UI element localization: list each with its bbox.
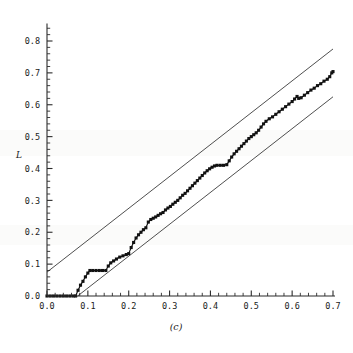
data-point-marker [79, 284, 82, 287]
x-tick-label: 0.2 [121, 301, 136, 311]
data-point-marker [144, 226, 147, 229]
data-point-marker [328, 75, 331, 78]
data-point-marker [127, 252, 130, 255]
data-point-marker [303, 94, 306, 97]
data-point-marker [118, 256, 121, 259]
data-point-marker [115, 257, 118, 260]
scan-wash-band-lower [0, 225, 353, 245]
data-point-marker [319, 82, 322, 85]
data-point-marker [322, 80, 325, 83]
data-point-marker [257, 129, 260, 132]
data-point-marker [88, 269, 91, 272]
data-point-marker [219, 164, 222, 167]
data-point-marker [91, 269, 94, 272]
chart-canvas: 0.00.10.20.30.40.50.60.70.80.00.10.20.30… [0, 0, 353, 353]
data-point-marker [132, 241, 135, 244]
data-point-marker [225, 163, 228, 166]
x-tick-label: 0.5 [244, 301, 259, 311]
data-point-marker [84, 275, 87, 278]
data-point-marker [331, 70, 334, 73]
scan-wash-band-upper [0, 130, 353, 156]
y-tick-label: 0.8 [25, 36, 40, 46]
data-point-marker [81, 280, 84, 283]
y-tick-label: 0.6 [25, 100, 40, 110]
data-point-marker [300, 96, 303, 99]
data-point-marker [215, 164, 218, 167]
x-tick-label: 0.7 [325, 301, 340, 311]
data-point-marker [98, 269, 101, 272]
data-point-marker [268, 117, 271, 120]
x-tick-label: 0.3 [162, 301, 177, 311]
y-tick-label: 0.5 [25, 132, 40, 142]
data-point-marker [77, 289, 80, 292]
figure-caption: (c) [170, 321, 183, 332]
x-tick-label: 0.4 [203, 301, 218, 311]
data-point-marker [121, 254, 124, 257]
data-point-marker [316, 84, 319, 87]
data-point-marker [313, 87, 316, 90]
figure-panel: 0.00.10.20.30.40.50.60.70.80.00.10.20.30… [0, 0, 353, 353]
data-point-marker [101, 269, 104, 272]
data-point-marker [306, 91, 309, 94]
x-tick-label: 0.6 [284, 301, 299, 311]
data-point-marker [222, 164, 225, 167]
y-tick-label: 0.4 [25, 164, 40, 174]
data-point-marker [109, 261, 112, 264]
y-axis-title: L [15, 150, 22, 160]
data-point-marker [107, 264, 110, 267]
data-point-marker [112, 259, 115, 262]
data-point-marker [281, 108, 284, 111]
data-point-marker [228, 159, 231, 162]
y-tick-label: 0.0 [25, 291, 40, 301]
x-tick-label: 0.1 [80, 301, 95, 311]
y-tick-label: 0.1 [25, 259, 40, 269]
data-point-marker [104, 269, 107, 272]
y-tick-label: 0.3 [25, 196, 40, 206]
data-point-marker [271, 115, 274, 118]
data-point-marker [287, 103, 290, 106]
data-point-marker [264, 120, 267, 123]
data-point-marker [274, 113, 277, 116]
data-point-marker [130, 246, 133, 249]
data-point-marker [309, 89, 312, 92]
data-point-marker [260, 126, 263, 129]
y-tick-label: 0.2 [25, 227, 40, 237]
data-point-marker [278, 110, 281, 113]
data-point-marker [230, 155, 233, 158]
y-tick-label: 0.7 [25, 68, 40, 78]
data-point-marker [94, 269, 97, 272]
data-point-marker [284, 105, 287, 108]
data-point-marker [135, 236, 138, 239]
x-tick-label: 0.0 [39, 301, 54, 311]
